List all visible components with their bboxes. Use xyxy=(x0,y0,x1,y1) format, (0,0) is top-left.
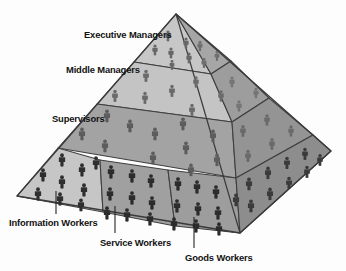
label-middle-managers: Middle Managers xyxy=(66,65,140,74)
label-service-workers: Service Workers xyxy=(100,238,171,247)
pyramid-graphic xyxy=(0,0,346,271)
label-supervisors: Supervisors xyxy=(52,114,105,123)
organizational-pyramid-diagram: Executive Managers Middle Managers Super… xyxy=(0,0,346,271)
label-information-workers: Information Workers xyxy=(9,218,98,227)
label-goods-workers: Goods Workers xyxy=(185,253,253,262)
label-executive-managers: Executive Managers xyxy=(84,30,171,39)
